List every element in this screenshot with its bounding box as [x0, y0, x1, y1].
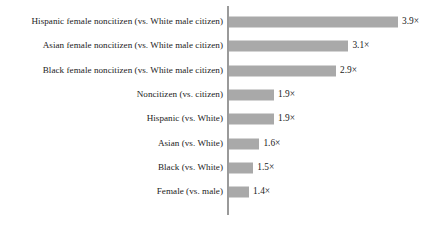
category-label: Noncitizen (vs. citizen) [137, 90, 223, 99]
value-label: 1.5× [257, 163, 274, 172]
bar-row: Black female noncitizen (vs. White male … [0, 59, 439, 83]
bar-segment [229, 162, 254, 173]
value-label: 1.6× [263, 139, 280, 148]
bar-row: Black (vs. White) 1.5× [0, 156, 439, 180]
category-label: Asian female noncitizen (vs. White male … [43, 42, 223, 51]
value-label: 2.9× [340, 66, 357, 75]
bar-segment [229, 90, 274, 101]
bar-chart: Hispanic female noncitizen (vs. White ma… [0, 0, 439, 226]
value-label: 3.9× [402, 17, 419, 26]
bar-row: Asian female noncitizen (vs. White male … [0, 34, 439, 58]
bar-segment [229, 138, 260, 149]
category-label: Hispanic female noncitizen (vs. White ma… [31, 18, 223, 27]
bar-segment [229, 41, 349, 52]
bar-segment [229, 65, 336, 76]
category-label: Hispanic (vs. White) [147, 115, 223, 124]
category-label: Female (vs. male) [157, 188, 223, 197]
bar-row: Noncitizen (vs. citizen) 1.9× [0, 83, 439, 107]
value-label: 3.1× [352, 42, 369, 51]
bar-segment [229, 114, 274, 125]
plot-area: Hispanic female noncitizen (vs. White ma… [0, 0, 439, 226]
bar-row: Hispanic (vs. White) 1.9× [0, 107, 439, 131]
category-label: Black (vs. White) [158, 163, 223, 172]
bar-row: Female (vs. male) 1.4× [0, 180, 439, 204]
bar-row: Hispanic female noncitizen (vs. White ma… [0, 10, 439, 34]
category-label: Black female noncitizen (vs. White male … [43, 66, 223, 75]
value-label: 1.4× [253, 188, 270, 197]
category-label: Asian (vs. White) [158, 139, 223, 148]
bar-segment [229, 17, 398, 28]
value-label: 1.9× [278, 90, 295, 99]
bar-row: Asian (vs. White) 1.6× [0, 132, 439, 156]
bar-segment [229, 187, 250, 198]
value-label: 1.9× [278, 115, 295, 124]
